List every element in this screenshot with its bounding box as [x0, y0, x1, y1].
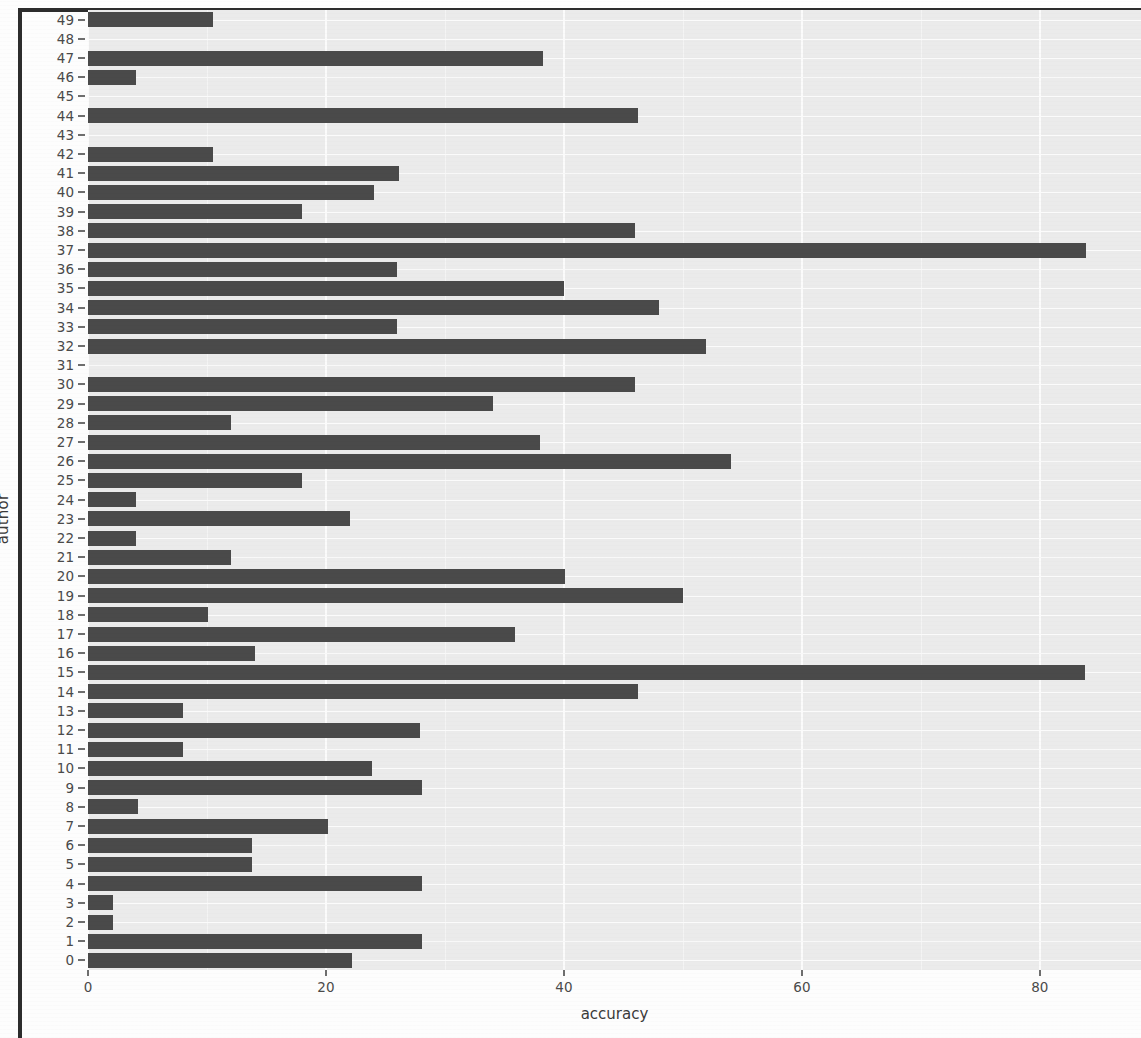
y-axis-tick-mark	[78, 940, 85, 942]
bar	[88, 627, 515, 642]
y-axis-tick-label: 8	[30, 801, 74, 813]
y-axis-tick-label: 41	[30, 167, 74, 179]
y-axis-tick-label: 17	[30, 628, 74, 640]
y-axis-tick-label: 47	[30, 52, 74, 64]
bar	[88, 492, 136, 507]
y-axis-tick-mark	[78, 921, 85, 923]
y-axis-tick-mark	[78, 691, 85, 693]
y-axis-tick-mark	[78, 230, 85, 232]
y-axis-tick-label: 12	[30, 724, 74, 736]
y-axis-tick-label: 4	[30, 878, 74, 890]
bar	[88, 588, 683, 603]
y-axis-tick-label: 31	[30, 359, 74, 371]
y-axis-tick-label: 24	[30, 494, 74, 506]
y-axis-tick-label: 27	[30, 436, 74, 448]
bar	[88, 876, 422, 891]
bar	[88, 895, 113, 910]
bar	[88, 761, 372, 776]
gridline-major-horizontal	[88, 557, 1141, 558]
y-axis-tick-label: 16	[30, 647, 74, 659]
y-axis-tick-label: 29	[30, 398, 74, 410]
y-axis-tick-mark	[78, 115, 85, 117]
y-axis-tick-label: 11	[30, 743, 74, 755]
y-axis-tick-mark	[78, 499, 85, 501]
y-axis-tick-label: 13	[30, 705, 74, 717]
bar	[88, 12, 213, 27]
y-axis-tick-label: 39	[30, 206, 74, 218]
bar	[88, 204, 302, 219]
y-axis-tick-mark	[78, 710, 85, 712]
y-axis-tick-label: 21	[30, 551, 74, 563]
y-axis-tick-label: 28	[30, 417, 74, 429]
y-axis-tick-mark	[78, 902, 85, 904]
bar	[88, 550, 231, 565]
y-axis-tick-mark	[78, 19, 85, 21]
y-axis-tick-mark	[78, 422, 85, 424]
bar	[88, 953, 352, 968]
y-axis-tick-mark	[78, 595, 85, 597]
y-axis-tick-mark	[78, 57, 85, 59]
x-axis-tick-mark	[1039, 970, 1041, 976]
y-axis-tick-mark	[78, 326, 85, 328]
y-axis-title: author	[0, 0, 16, 1038]
bar	[88, 723, 420, 738]
y-axis-tick-label: 40	[30, 186, 74, 198]
bar	[88, 665, 1085, 680]
bar	[88, 934, 422, 949]
y-axis-tick-mark	[78, 403, 85, 405]
x-axis-tick-mark	[325, 970, 327, 976]
bar	[88, 396, 493, 411]
y-axis-tick-label: 26	[30, 455, 74, 467]
bar	[88, 377, 635, 392]
bar	[88, 473, 302, 488]
bar	[88, 262, 397, 277]
x-axis-tick-label: 40	[534, 979, 594, 995]
bar	[88, 780, 422, 795]
y-axis-tick-label: 10	[30, 762, 74, 774]
y-axis-tick-mark	[78, 537, 85, 539]
gridline-major-horizontal	[88, 77, 1141, 78]
bar	[88, 185, 374, 200]
bar	[88, 281, 564, 296]
bar	[88, 511, 350, 526]
bar	[88, 319, 397, 334]
y-axis-tick-label: 2	[30, 916, 74, 928]
x-axis-tick-labels: 020406080	[88, 979, 1141, 999]
bar	[88, 147, 213, 162]
bar	[88, 838, 252, 853]
y-axis-tick-label: 22	[30, 532, 74, 544]
y-axis-tick-label: 19	[30, 590, 74, 602]
x-axis-title: accuracy	[88, 1005, 1141, 1023]
y-axis-tick-mark	[78, 787, 85, 789]
bar	[88, 569, 565, 584]
bar	[88, 339, 706, 354]
y-axis-tick-mark	[78, 479, 85, 481]
y-axis-tick-mark	[78, 959, 85, 961]
y-axis-tick-label: 7	[30, 820, 74, 832]
y-axis-tick-mark	[78, 172, 85, 174]
x-axis-tick-label: 0	[58, 979, 118, 995]
y-axis-tick-label: 46	[30, 71, 74, 83]
bar	[88, 243, 1086, 258]
y-axis-tick-mark	[78, 287, 85, 289]
y-axis-tick-label: 5	[30, 858, 74, 870]
y-axis-tick-label: 35	[30, 282, 74, 294]
y-axis-tick-label: 1	[30, 935, 74, 947]
bar	[88, 703, 183, 718]
gridline-major-horizontal	[88, 154, 1141, 155]
y-axis-tick-mark	[78, 863, 85, 865]
bar	[88, 819, 328, 834]
y-axis-tick-mark	[78, 95, 85, 97]
x-axis-tick-label: 60	[772, 979, 832, 995]
y-axis-tick-mark	[78, 883, 85, 885]
y-axis-tick-labels: 0123456789101112131415161718192021222324…	[30, 10, 74, 970]
bar	[88, 435, 540, 450]
gridline-major-horizontal	[88, 39, 1141, 40]
y-axis-tick-mark	[78, 556, 85, 558]
bar	[88, 531, 136, 546]
gridline-major-horizontal	[88, 20, 1141, 21]
y-axis-tick-label: 44	[30, 110, 74, 122]
y-axis-tick-mark	[78, 806, 85, 808]
y-axis-tick-label: 6	[30, 839, 74, 851]
y-axis-tick-label: 30	[30, 378, 74, 390]
